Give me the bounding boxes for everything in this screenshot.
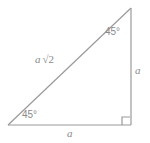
hypotenuse-radical: √2 — [43, 53, 55, 65]
side-label-leg-vertical: a — [135, 65, 141, 76]
triangle-graphic — [0, 0, 150, 143]
side-label-hypotenuse: a√2 — [35, 54, 54, 65]
geometry-diagram: 45° 45° a√2 a a — [0, 0, 150, 143]
angle-label-top-right: 45° — [105, 27, 120, 37]
right-angle-marker-icon — [122, 117, 130, 125]
side-label-leg-horizontal: a — [67, 128, 73, 139]
angle-label-bottom-left: 45° — [22, 110, 37, 120]
hypotenuse-variable: a — [35, 53, 41, 65]
